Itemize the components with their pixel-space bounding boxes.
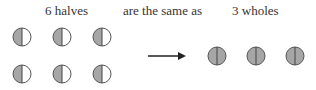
half-circle-icon bbox=[13, 28, 31, 46]
halves-group bbox=[13, 28, 111, 83]
half-circle-icon bbox=[13, 65, 31, 83]
half-circle-icon bbox=[93, 65, 111, 83]
whole-circle-icon bbox=[247, 47, 265, 65]
whole-circle-icon bbox=[286, 47, 304, 65]
half-circle-icon bbox=[53, 28, 71, 46]
diagram-canvas bbox=[0, 0, 316, 90]
half-circle-icon bbox=[53, 65, 71, 83]
half-circle-icon bbox=[93, 28, 111, 46]
arrow-icon bbox=[148, 52, 186, 60]
wholes-group bbox=[208, 47, 304, 65]
whole-circle-icon bbox=[208, 47, 226, 65]
